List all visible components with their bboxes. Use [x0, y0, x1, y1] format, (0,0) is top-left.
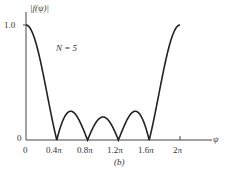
x-tick-label-1-2pi: 1.2π: [107, 145, 123, 155]
figure-caption: (b): [114, 157, 125, 167]
y-axis-label: |f(ψ)|: [30, 3, 49, 13]
x-tick-label-0: 0: [23, 145, 28, 155]
n-annotation: N = 5: [56, 43, 77, 53]
x-tick-label-0-4pi: 0.4π: [46, 145, 62, 155]
y-tick-label-zero: 0: [17, 133, 22, 143]
x-tick-label-0-8pi: 0.8π: [77, 145, 93, 155]
y-tick-label-top: 1.0: [4, 20, 15, 30]
x-tick-label-1-6pi: 1.6π: [138, 145, 154, 155]
x-axis-label: ψ: [213, 134, 219, 144]
x-tick-label-2pi: 2π: [173, 145, 182, 155]
array-factor-curve: [26, 25, 180, 140]
